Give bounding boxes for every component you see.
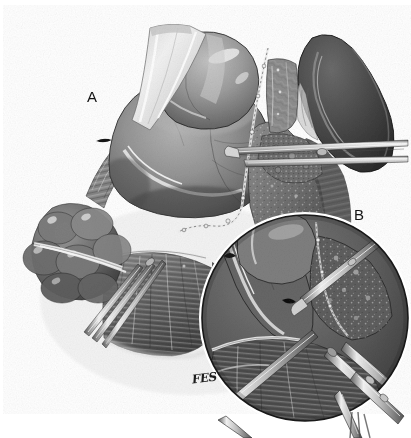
surgical-illustration-figure: A B FES bbox=[0, 0, 411, 438]
panel-label-a: A bbox=[87, 89, 98, 104]
panel-label-b: B bbox=[354, 207, 365, 222]
duodenal-stump bbox=[266, 59, 298, 133]
